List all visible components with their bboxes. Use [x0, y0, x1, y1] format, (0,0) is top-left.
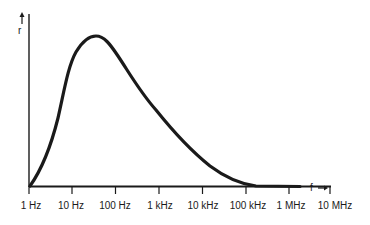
x-axis-label: f [310, 182, 313, 193]
x-tick-label: 10 kHz [187, 200, 218, 211]
x-tick-label: 1 MHz [277, 200, 306, 211]
x-tick-label: 10 MHz [318, 200, 352, 211]
response-curve [30, 36, 300, 187]
x-tick-label: 1 kHz [147, 200, 173, 211]
x-tick-label: 10 Hz [58, 200, 84, 211]
x-tick-label: 1 Hz [21, 200, 42, 211]
chart-canvas [0, 0, 370, 225]
x-tick-label: 100 Hz [99, 200, 131, 211]
x-tick-label: 100 kHz [230, 200, 267, 211]
y-arrowhead-icon [20, 12, 25, 17]
y-axis-label: r [18, 25, 21, 36]
